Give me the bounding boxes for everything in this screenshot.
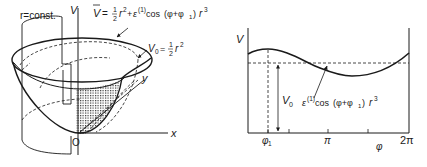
- figure: r=const. V x y O V = 1 2 r 2 + ε (1) cos…: [0, 0, 427, 167]
- svg-text:2: 2: [180, 41, 184, 48]
- perturbed-pointer: [117, 28, 128, 37]
- plot-v-label: V: [236, 33, 245, 45]
- x-axis-label: x: [170, 127, 177, 139]
- svg-text:(1): (1): [307, 95, 315, 103]
- svg-text:+: +: [127, 9, 132, 19]
- perturbation-annotation: ε (1) cos (φ+φ 1 ) r 3: [302, 95, 378, 109]
- perturbed-potential-formula: V = 1 2 r 2 + ε (1) cos (φ+φ 1 ) r 3: [93, 5, 208, 22]
- svg-text:1: 1: [169, 41, 173, 48]
- svg-text:0: 0: [155, 48, 159, 55]
- svg-text:V: V: [93, 7, 102, 19]
- svg-text:2: 2: [113, 15, 117, 22]
- svg-text:): ): [193, 9, 196, 19]
- svg-text:=: =: [160, 44, 165, 54]
- perturbation-pointer: [314, 66, 327, 98]
- right-plot: [248, 28, 409, 133]
- svg-text:2: 2: [169, 50, 173, 57]
- svg-text:(1): (1): [138, 6, 146, 14]
- svg-text:(φ+φ: (φ+φ: [164, 9, 184, 19]
- unperturbed-pointer: [138, 50, 147, 58]
- svg-text:2π: 2π: [400, 134, 414, 146]
- svg-text:π: π: [324, 135, 331, 146]
- svg-text:r: r: [199, 8, 203, 19]
- svg-text:r: r: [369, 97, 373, 108]
- svg-text:cos: cos: [146, 9, 161, 19]
- svg-text:1: 1: [268, 140, 272, 147]
- svg-text:3: 3: [374, 95, 378, 102]
- y-axis-label: y: [141, 72, 149, 84]
- potential-curve: [248, 49, 409, 76]
- unperturbed-potential-formula: V 0 = 1 2 r 2: [148, 41, 184, 57]
- svg-text:r: r: [175, 43, 179, 54]
- v0-label: V 0: [282, 94, 293, 108]
- svg-text:3: 3: [204, 6, 208, 13]
- svg-text:1: 1: [113, 6, 117, 13]
- svg-text:cos: cos: [315, 98, 330, 108]
- cylinder-label: r=const.: [20, 10, 56, 21]
- x-tick-labels: φ 1 π 2π: [262, 134, 414, 147]
- svg-text:=: =: [102, 8, 108, 19]
- svg-text:): ): [362, 98, 365, 108]
- plot-phi-label: φ: [376, 141, 383, 152]
- svg-text:0: 0: [289, 101, 293, 108]
- svg-text:(φ+φ: (φ+φ: [333, 98, 353, 108]
- origin-label: O: [72, 137, 80, 148]
